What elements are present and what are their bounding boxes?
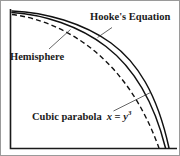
- leader-line-hemisphere: [49, 30, 71, 50]
- cubic-equation-exponent: 3: [128, 109, 132, 117]
- axis-lines: [11, 9, 178, 149]
- curve-label-hemisphere: Hemisphere: [10, 52, 64, 63]
- profile-plot-canvas: [1, 1, 180, 156]
- curve-label-hookes-equation: Hooke's Equation: [90, 12, 170, 23]
- nose-cone-profile-figure: Hooke's Equation Hemisphere Cubic parabo…: [0, 0, 180, 156]
- cubic-label-text: Cubic parabola: [32, 111, 102, 122]
- cubic-equation-relation: =: [115, 111, 121, 122]
- cubic-equation-lhs: x: [107, 111, 112, 122]
- leader-line-cubic-parabola: [114, 93, 151, 112]
- curve-hemisphere: [12, 11, 169, 148]
- leader-line-hooke: [98, 28, 113, 38]
- curve-hookes-equation: [12, 13, 166, 149]
- axis-frame: [11, 9, 178, 149]
- curve-label-cubic-parabola: Cubic parabolax = y3: [32, 110, 131, 122]
